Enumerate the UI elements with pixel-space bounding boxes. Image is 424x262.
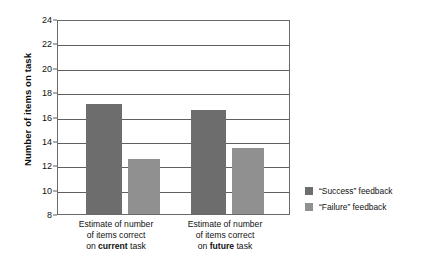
x-category-future-prefix: on — [198, 241, 210, 251]
y-tick-label-10: 10 — [26, 186, 52, 196]
chart-legend: “Success” feedback “Failure” feedback — [305, 186, 393, 218]
legend-item-success: “Success” feedback — [305, 186, 393, 196]
legend-label-success: “Success” feedback — [319, 186, 393, 196]
y-tick-label-8: 8 — [26, 210, 52, 220]
x-category-label-current: Estimate of number of items correct on c… — [56, 219, 176, 251]
y-tick-label-18: 18 — [26, 88, 52, 98]
x-category-future-line3: on future task — [165, 241, 285, 252]
y-tick-label-12: 12 — [26, 161, 52, 171]
x-category-label-future: Estimate of number of items correct on f… — [165, 219, 285, 251]
x-category-current-line2: of items correct — [56, 230, 176, 241]
bar-current-success — [86, 104, 122, 214]
gridline-22 — [58, 45, 289, 46]
y-tick-label-14: 14 — [26, 137, 52, 147]
legend-label-failure: “Failure” feedback — [319, 202, 387, 212]
bar-future-failure — [232, 148, 264, 214]
x-category-current-emphasis: current — [98, 241, 128, 251]
bar-future-success — [191, 110, 226, 214]
x-category-current-suffix: task — [128, 241, 146, 251]
legend-swatch-success-icon — [305, 187, 313, 195]
y-tick-label-24: 24 — [26, 15, 52, 25]
x-category-future-suffix: task — [234, 241, 252, 251]
x-category-future-line1: Estimate of number — [165, 219, 285, 230]
y-tick-label-22: 22 — [26, 39, 52, 49]
x-category-current-prefix: on — [86, 241, 98, 251]
gridline-18 — [58, 94, 289, 95]
x-category-future-emphasis: future — [210, 241, 234, 251]
x-category-current-line3: on current task — [56, 241, 176, 252]
y-tick-label-16: 16 — [26, 113, 52, 123]
y-tick-label-20: 20 — [26, 64, 52, 74]
legend-swatch-failure-icon — [305, 203, 313, 211]
gridline-20 — [58, 70, 289, 71]
bar-current-failure — [128, 159, 160, 214]
legend-item-failure: “Failure” feedback — [305, 202, 393, 212]
x-category-current-line1: Estimate of number — [56, 219, 176, 230]
plot-area — [57, 20, 290, 215]
bar-chart-figure: Number of items on task 24 22 20 18 16 1… — [0, 0, 424, 262]
x-category-future-line2: of items correct — [165, 230, 285, 241]
